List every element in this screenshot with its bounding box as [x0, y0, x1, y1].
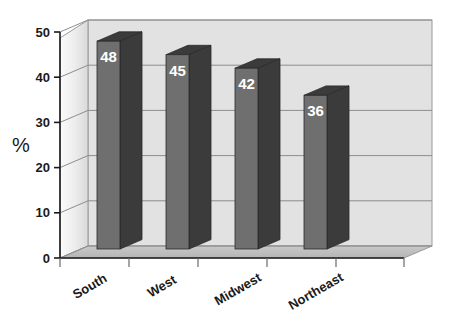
y-axis: 0 10 20 30 40 50 % — [12, 25, 60, 266]
y-tick-label-10: 10 — [36, 205, 50, 220]
x-category-labels: South West Midwest Northeast — [70, 269, 346, 313]
bar-side-face — [258, 59, 280, 249]
bar-value-label: 42 — [238, 75, 255, 92]
bar-front-face — [235, 68, 258, 249]
bar-value-label: 36 — [307, 102, 324, 119]
left-side-wall — [60, 20, 88, 258]
bar-midwest[interactable]: 42 — [235, 59, 280, 249]
bar-chart: 0 10 20 30 40 50 % 36 — [0, 0, 451, 317]
bar-value-label: 48 — [100, 48, 117, 65]
x-label-northeast: Northeast — [286, 269, 347, 313]
x-label-midwest: Midwest — [212, 269, 264, 308]
bar-front-face — [166, 55, 189, 249]
bar-west[interactable]: 45 — [166, 45, 211, 249]
y-axis-ticks — [54, 32, 60, 258]
bar-side-face — [120, 32, 142, 249]
y-tick-label-30: 30 — [36, 115, 50, 130]
x-label-south: South — [70, 270, 109, 301]
bar-front-face — [97, 41, 120, 249]
bar-value-label: 45 — [169, 62, 186, 79]
x-axis — [60, 258, 404, 267]
bar-side-face — [327, 86, 349, 249]
x-label-west: West — [145, 272, 180, 301]
chart-canvas: 0 10 20 30 40 50 % 36 — [0, 0, 451, 317]
x-axis-ticks — [60, 258, 404, 267]
y-tick-label-20: 20 — [36, 160, 50, 175]
y-tick-label-0: 0 — [43, 251, 50, 266]
y-tick-label-40: 40 — [36, 70, 50, 85]
bar-south[interactable]: 48 — [97, 32, 142, 249]
y-axis-title: % — [12, 134, 30, 156]
y-tick-label-50: 50 — [36, 25, 50, 40]
bar-northeast[interactable]: 36 — [304, 86, 349, 249]
bar-side-face — [189, 45, 211, 249]
